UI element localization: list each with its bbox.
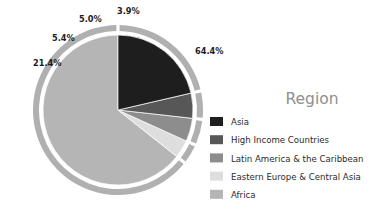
legend-swatch — [210, 172, 223, 181]
pie-chart-figure: 3.9%5.0%5.4%21.4%64.4% Region AsiaHigh I… — [0, 0, 381, 214]
legend-swatch — [210, 190, 223, 199]
pie-percentage-label: 5.4% — [52, 33, 75, 43]
pie-chart-svg: 3.9%5.0%5.4%21.4%64.4% Region AsiaHigh I… — [0, 0, 381, 214]
pie-percentage-label: 21.4% — [33, 58, 61, 68]
legend-title: Region — [285, 90, 338, 108]
legend-swatch — [210, 135, 223, 144]
legend-item-label: Asia — [231, 117, 249, 127]
legend-swatch — [210, 117, 223, 126]
pie-percentage-label: 5.0% — [79, 14, 102, 24]
pie-percentage-label: 3.9% — [117, 6, 140, 16]
pie-percentage-label: 64.4% — [195, 46, 223, 56]
pie-slices-group — [43, 35, 193, 185]
outer-ring-segment — [191, 120, 203, 143]
legend-swatch — [210, 153, 223, 162]
outer-ring-segment — [195, 92, 203, 117]
legend-item-label: Africa — [231, 190, 256, 200]
legend: Region AsiaHigh Income CountriesLatin Am… — [210, 90, 364, 200]
legend-item-label: Latin America & the Caribbean — [231, 154, 364, 164]
legend-item-label: Eastern Europe & Central Asia — [231, 172, 361, 182]
legend-item-label: High Income Countries — [231, 135, 330, 145]
